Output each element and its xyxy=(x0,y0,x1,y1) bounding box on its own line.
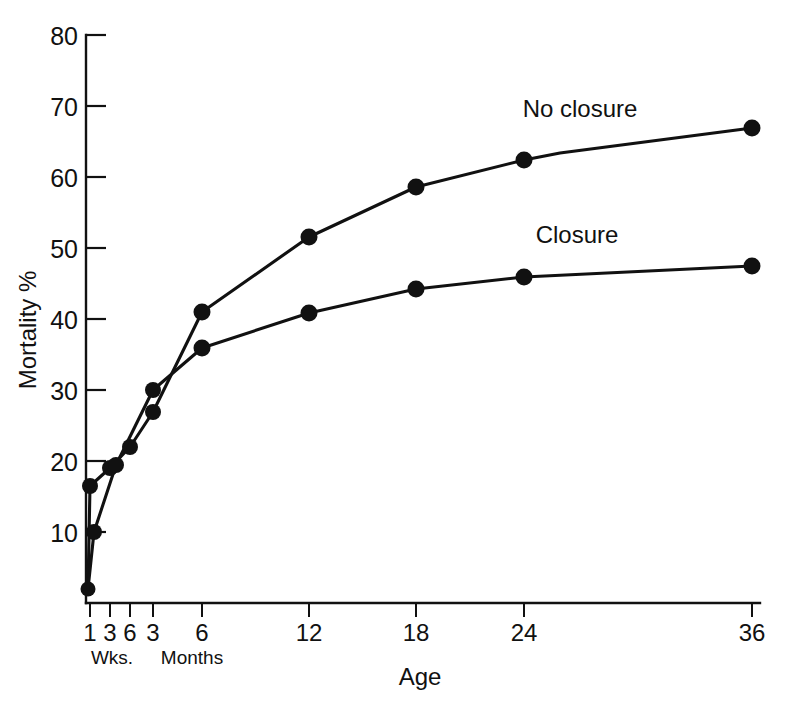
y-tick-label: 70 xyxy=(50,93,78,121)
x-axis-ticks xyxy=(90,603,752,617)
series-label-no-closure: No closure xyxy=(523,95,638,122)
data-point xyxy=(145,382,161,398)
data-point xyxy=(82,478,98,494)
x-axis-unit-labels: Wks. Months xyxy=(91,647,223,668)
data-point xyxy=(108,457,124,473)
y-axis-title: Mortality % xyxy=(14,271,41,390)
y-tick-label: 40 xyxy=(50,306,78,334)
series-label-closure: Closure xyxy=(536,221,619,248)
y-tick-label: 10 xyxy=(50,519,78,547)
x-tick-label: 36 xyxy=(739,619,766,646)
data-point xyxy=(86,524,102,540)
x-axis-title: Age xyxy=(399,663,442,690)
y-tick-label: 50 xyxy=(50,235,78,263)
x-unit-label-weeks: Wks. xyxy=(91,647,133,668)
data-point xyxy=(408,281,425,298)
data-point xyxy=(194,340,211,357)
data-point xyxy=(516,152,533,169)
x-tick-label: 6 xyxy=(123,619,136,646)
x-tick-label: 1 xyxy=(83,619,96,646)
chart-figure: 80 70 60 50 40 30 20 10 1 3 6 3 6 12 18 … xyxy=(0,0,785,702)
y-axis-ticks xyxy=(86,35,106,532)
x-tick-label: 12 xyxy=(296,619,323,646)
x-tick-labels: 1 3 6 3 6 12 18 24 36 xyxy=(83,619,765,646)
closure-line xyxy=(88,266,752,589)
y-tick-label: 80 xyxy=(50,22,78,50)
series-closure xyxy=(86,258,761,590)
x-tick-label: 3 xyxy=(146,619,159,646)
x-tick-label: 18 xyxy=(403,619,430,646)
x-unit-label-months: Months xyxy=(161,647,223,668)
data-point xyxy=(744,120,761,137)
x-tick-label: 24 xyxy=(511,619,538,646)
data-point xyxy=(145,404,161,420)
data-point xyxy=(408,179,425,196)
series-no-closure xyxy=(81,120,761,597)
data-point xyxy=(744,258,761,275)
y-tick-label: 20 xyxy=(50,448,78,476)
y-tick-labels: 80 70 60 50 40 30 20 10 xyxy=(50,22,78,547)
data-point xyxy=(301,305,318,322)
mortality-by-age-line-chart: 80 70 60 50 40 30 20 10 1 3 6 3 6 12 18 … xyxy=(0,0,785,702)
y-tick-label: 60 xyxy=(50,164,78,192)
data-point xyxy=(301,229,318,246)
data-point xyxy=(194,304,211,321)
x-tick-label: 6 xyxy=(195,619,208,646)
x-tick-label: 3 xyxy=(103,619,116,646)
data-point xyxy=(516,269,533,286)
y-tick-label: 30 xyxy=(50,377,78,405)
